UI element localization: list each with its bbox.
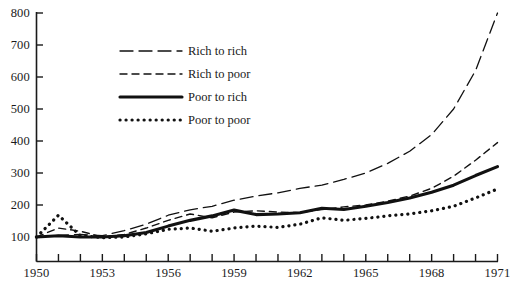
y-axis-tick-label: 700 <box>0 39 30 52</box>
legend-label-rich-to-poor: Rich to poor <box>188 68 251 81</box>
series-line-poor-to-rich <box>37 167 498 237</box>
legend-swatches <box>120 51 182 120</box>
y-axis-tick-label: 200 <box>0 199 30 212</box>
x-axis-tick-label: 1962 <box>278 267 322 280</box>
y-axis-tick-label: 800 <box>0 7 30 20</box>
series-line-rich-to-poor <box>37 143 498 237</box>
x-axis-tick-label: 1953 <box>80 267 124 280</box>
x-axis-tick-label: 1959 <box>212 267 256 280</box>
line-chart: 800700600500400300200100 195019531956195… <box>0 0 514 298</box>
legend-label-rich-to-rich: Rich to rich <box>188 45 247 58</box>
y-axis-tick-label: 400 <box>0 135 30 148</box>
chart-series-group <box>37 13 498 238</box>
series-line-rich-to-rich <box>37 13 498 237</box>
y-axis-tick-label: 100 <box>0 231 30 244</box>
chart-plot-area <box>0 0 514 298</box>
legend-label-poor-to-rich: Poor to rich <box>188 91 247 104</box>
x-axis-tick-label: 1971 <box>476 267 514 280</box>
y-axis-tick-label: 600 <box>0 71 30 84</box>
y-axis-tick-label: 500 <box>0 103 30 116</box>
x-axis-tick-label: 1950 <box>15 267 59 280</box>
x-axis-tick-label: 1968 <box>410 267 454 280</box>
x-axis-tick-label: 1965 <box>344 267 388 280</box>
y-axis-tick-label: 300 <box>0 167 30 180</box>
legend-label-poor-to-poor: Poor to poor <box>188 114 251 127</box>
x-axis-tick-label: 1956 <box>146 267 190 280</box>
